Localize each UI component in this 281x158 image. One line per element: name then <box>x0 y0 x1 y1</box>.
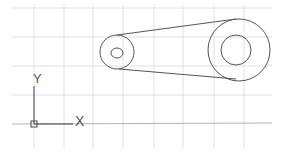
ucs-icon <box>31 86 73 127</box>
small-pulley-outer <box>100 35 134 69</box>
belt-bottom <box>119 69 236 79</box>
small-pulley-hub <box>111 48 123 58</box>
y-axis-label: Y <box>33 71 42 86</box>
large-pulley-outer <box>208 19 270 81</box>
cad-drawing-canvas: Y X <box>0 0 281 158</box>
large-pulley-hub <box>221 35 251 65</box>
x-axis-label: X <box>75 113 85 129</box>
grid <box>12 5 272 148</box>
